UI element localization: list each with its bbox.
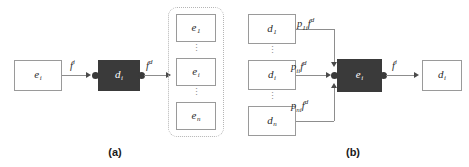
panel-a-in-flow-label: fi (70, 59, 75, 71)
panel-a-process-node: di (98, 60, 140, 91)
panel-a-in-edge-arrowhead (86, 72, 91, 78)
panel-b-edge-1-vertical (334, 29, 335, 63)
panel-b-process-node: ei (337, 59, 382, 92)
panel-a-out-edge-line (144, 75, 168, 76)
panel-a-target-ellipsis-bottom: ⋮ (191, 88, 201, 97)
panel-b-source-node-n-label: dn (267, 115, 277, 128)
panel-b-source-node-i: di (248, 60, 296, 90)
panel-a-target-node-i: ei (176, 58, 216, 86)
panel-a-source-node: ei (14, 60, 62, 91)
panel-a-target-node-1: e1 (176, 14, 216, 42)
panel-b-target-node-label: di (438, 69, 446, 82)
panel-a-process-node-label: di (115, 69, 123, 82)
panel-b-source-node-1: d1 (248, 14, 296, 44)
panel-b-out-edge-arrowhead (414, 72, 419, 78)
panel-b-target-node: di (422, 60, 462, 91)
panel-b-edge-n-horizontal (296, 121, 334, 122)
panel-b-out-flow-label: fi (392, 59, 397, 71)
panel-a-target-node-1-label: e1 (192, 22, 201, 35)
panel-b-edge-i-horizontal (296, 75, 328, 76)
panel-b-process-node-label: ei (356, 69, 363, 82)
panel-a-target-ellipsis-top: ⋮ (191, 44, 201, 53)
panel-a-in-edge-line (62, 75, 88, 76)
figure-canvas: ei fi di fd e1 ⋮ ei (0, 0, 469, 167)
panel-b-caption: (b) (333, 146, 373, 158)
panel-a-source-node-label: ei (34, 69, 41, 82)
panel-b-source-node-1-label: d1 (267, 23, 277, 36)
panel-b-edge-i-label: piifd (291, 60, 307, 75)
panel-b-edge-1-arrowhead (331, 62, 337, 67)
panel-a-target-node-i-label: ei (192, 66, 199, 79)
panel-b-edge-n-vertical (334, 88, 335, 121)
panel-a-target-node-n: en (176, 102, 216, 130)
panel-a-target-node-n-label: en (192, 110, 201, 123)
panel-b-edge-n-label: pnifd (291, 99, 308, 114)
panel-b-out-edge-line (386, 75, 416, 76)
panel-b-source-ellipsis-top: ⋮ (267, 46, 277, 55)
panel-b-source-ellipsis-bottom: ⋮ (267, 92, 277, 101)
panel-b-edge-1-label: p1ifd (297, 17, 314, 32)
panel-a-caption: (a) (95, 146, 135, 158)
panel-a-out-flow-label: fd (146, 59, 152, 71)
panel-b-edge-n-arrowhead (331, 83, 337, 88)
panel-b-source-node-n: dn (248, 106, 296, 136)
panel-b-source-node-i-label: di (268, 69, 276, 82)
